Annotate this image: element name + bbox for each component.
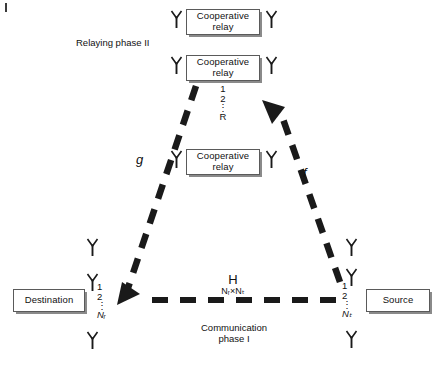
antenna-icon-source-top <box>345 238 358 257</box>
relay-label-line2: relay <box>212 162 233 173</box>
arrowhead-destination <box>117 282 140 305</box>
arrowhead-relay <box>262 100 285 124</box>
channel-matrix-dims: Nᵣ×Nₜ <box>204 286 262 296</box>
relay-box-1[interactable]: Cooperative relay <box>186 9 260 35</box>
antenna-icon-relay3-right <box>265 150 278 169</box>
communication-phase-line1: Communication <box>201 322 267 333</box>
relay-label-line2: relay <box>212 22 233 33</box>
relay-index-R: R <box>220 111 227 122</box>
channel-label-g: g <box>136 152 143 167</box>
antenna-icon-relay2-right <box>265 56 278 75</box>
communication-phase-caption: Communication phase I <box>188 322 280 345</box>
relay-index-column: 1 2 ⋮ R <box>206 84 240 122</box>
link-relay-to-destination <box>117 86 196 305</box>
destination-antenna-index-column: 1 2 ⋮ Nᵣ <box>97 282 119 320</box>
source-label: Source <box>383 295 414 306</box>
antenna-icon-relay2-left <box>170 56 183 75</box>
source-antenna-index-column: 1 2 ⋮ Nₜ <box>342 281 364 319</box>
source-index-Nt: Nₜ <box>342 308 352 319</box>
figure-canvas: Cooperative relay Cooperative relay 1 2 … <box>0 0 444 370</box>
relay-label-line2: relay <box>212 68 233 79</box>
destination-label: Destination <box>25 295 74 306</box>
channel-label-f: f <box>303 165 307 180</box>
antenna-icon-destination-top <box>86 238 99 257</box>
antenna-icon-relay3-left <box>170 150 183 169</box>
destination-box[interactable]: Destination <box>13 289 85 312</box>
relay-box-2[interactable]: Cooperative relay <box>186 55 260 81</box>
antenna-icon-relay1-right <box>265 10 278 29</box>
destination-index-Nr: Nᵣ <box>97 309 106 320</box>
source-box[interactable]: Source <box>366 289 430 312</box>
antenna-icon-destination-Nr <box>86 331 99 350</box>
antenna-icon-relay1-left <box>170 10 183 29</box>
antenna-icon-source-Nt <box>345 330 358 349</box>
page-margin-tick <box>5 3 7 12</box>
channel-matrix-label: H <box>222 272 244 287</box>
relaying-phase-label: Relaying phase II <box>76 37 149 48</box>
link-source-to-relay <box>262 100 340 282</box>
relay-box-3[interactable]: Cooperative relay <box>186 149 260 175</box>
communication-phase-line2: phase I <box>218 333 249 344</box>
